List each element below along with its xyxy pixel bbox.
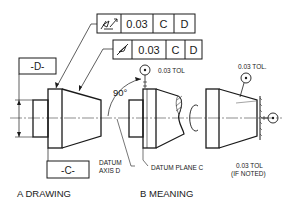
frame2-datum2: D [190,44,198,56]
tol-label-end-2: (IF NOTED) [231,170,266,178]
leader-frame1 [56,24,97,88]
datum-plane-leader [143,148,148,166]
frame1-tolerance: 0.03 [126,18,147,30]
svg-text:-C-: -C- [61,165,75,176]
frame1-datum2: D [181,18,189,30]
feature-control-frame-circular: 0.03 C D [113,40,202,59]
runout-diagram: 0.03 C D 0.03 C D -D- [0,0,288,208]
tol-label-end-1: 0.03 TOL [236,162,263,169]
frame2-tolerance: 0.03 [138,44,159,56]
caption-b: B MEANING [140,188,193,199]
feature-control-frame-total: 0.03 C D [97,14,195,33]
svg-text:-D-: -D- [31,61,45,72]
frame1-datum1: C [160,18,168,30]
tol-label-cone: 0.03 TOL. [238,63,267,70]
circular-runout-icon [117,44,128,55]
caption-a: A DRAWING [17,188,71,199]
tol-label-face: 0.03 TOL [158,67,185,74]
datum-d-dimension [15,100,33,137]
datum-axis-label-2: AXIS D [99,167,121,174]
leader-frame2 [79,49,113,91]
datum-axis-label-1: DATUM [99,159,122,166]
frame2-datum1: C [172,44,180,56]
part-meaning-cone [206,73,278,148]
part-drawing-a [33,89,101,148]
angle-label: 90° [113,87,128,98]
datum-plane-label: DATUM PLANE C [151,164,204,171]
datum-d-box: -D- [19,58,56,100]
part-meaning-face [129,65,198,148]
total-runout-icon [101,19,117,29]
datum-c-box: -C- [47,148,89,178]
